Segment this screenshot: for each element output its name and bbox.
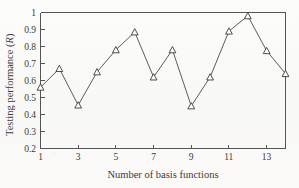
data-point-marker — [150, 74, 157, 80]
data-point-marker — [244, 13, 251, 19]
y-tick-label: 0.7 — [24, 59, 36, 69]
x-tick-marks — [41, 145, 267, 149]
x-tick-label: 11 — [224, 152, 233, 162]
x-tick-label: 1 — [38, 152, 43, 162]
y-axis-label-main: Testing performance ( — [4, 43, 16, 136]
x-tick-labels: 1 3 5 7 9 11 13 — [38, 152, 271, 162]
svg-text:Testing performance (R): Testing performance (R) — [4, 33, 16, 136]
y-tick-label: 0.4 — [24, 110, 36, 120]
y-tick-label: 0.6 — [24, 76, 36, 86]
data-point-marker — [169, 47, 176, 53]
series-line — [41, 16, 286, 106]
y-tick-label: 1 — [31, 8, 36, 18]
data-series — [37, 13, 289, 109]
data-point-marker — [263, 47, 270, 53]
data-point-marker — [56, 65, 63, 71]
y-tick-label: 0.5 — [24, 93, 36, 103]
line-chart: Testing performance (R) 1 0.9 0.8 0.7 0.… — [0, 0, 299, 188]
y-axis-label-close: ) — [4, 33, 16, 37]
x-tick-label: 7 — [151, 152, 156, 162]
y-tick-label: 0.9 — [24, 25, 36, 35]
chart-page: Testing performance (R) 1 0.9 0.8 0.7 0.… — [0, 0, 299, 188]
plot-frame — [41, 13, 286, 149]
data-point-marker — [131, 29, 138, 35]
x-axis-label: Number of basis functions — [107, 169, 218, 180]
x-tick-label: 9 — [189, 152, 194, 162]
x-tick-label: 3 — [76, 152, 81, 162]
data-point-marker — [188, 103, 195, 109]
y-tick-label: 0.2 — [24, 144, 36, 154]
series-markers — [37, 13, 289, 109]
x-tick-label: 13 — [262, 152, 272, 162]
y-tick-marks — [41, 13, 45, 149]
data-point-marker — [75, 102, 82, 108]
y-axis-label: Testing performance (R) — [4, 33, 16, 136]
x-tick-label: 5 — [113, 152, 118, 162]
y-tick-labels: 1 0.9 0.8 0.7 0.6 0.5 0.4 0.3 0.2 — [24, 8, 36, 154]
y-tick-label: 0.8 — [24, 42, 36, 52]
data-point-marker — [207, 74, 214, 80]
y-tick-label: 0.3 — [24, 127, 36, 137]
